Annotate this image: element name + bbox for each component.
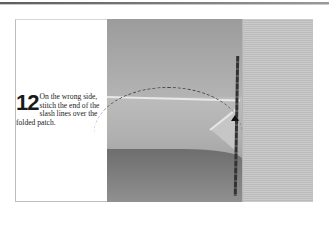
step-caption: 12 On the wrong side, stitch the end of …	[16, 93, 100, 127]
fabric-shadow	[107, 149, 242, 202]
fabric-photo	[107, 19, 313, 202]
header-rule-shadow	[0, 4, 329, 5]
arrow-marker-icon	[231, 115, 239, 121]
fabric-upper-area	[107, 19, 242, 99]
fabric-right-panel	[242, 19, 313, 202]
step-number: 12	[16, 94, 38, 112]
